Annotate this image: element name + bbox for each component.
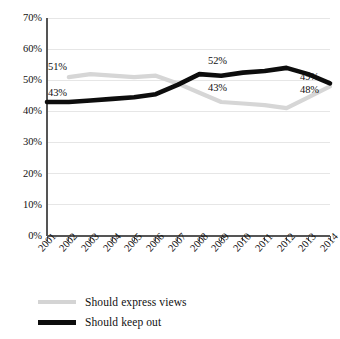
- y-tick-label: 40%: [4, 105, 42, 116]
- legend-label: Should express views: [85, 296, 187, 308]
- data-label: 49%: [300, 71, 319, 82]
- legend-item-should-express-views: Should express views: [38, 292, 298, 312]
- y-tick-label: 20%: [4, 168, 42, 179]
- legend-item-should-keep-out: Should keep out: [38, 312, 298, 332]
- data-label: 43%: [208, 82, 227, 93]
- legend-label: Should keep out: [85, 316, 161, 328]
- y-tick-label: 10%: [4, 199, 42, 210]
- legend-swatch-icon: [38, 320, 76, 325]
- gridlines: [47, 18, 330, 205]
- y-tick-label: 0%: [4, 230, 42, 241]
- y-tick-label: 70%: [4, 12, 42, 23]
- chart-legend: Should express views Should keep out: [38, 292, 298, 332]
- y-tick-label: 50%: [4, 74, 42, 85]
- data-label: 43%: [48, 87, 67, 98]
- data-label: 52%: [208, 55, 227, 66]
- data-label: 51%: [48, 61, 67, 72]
- y-tick-label: 30%: [4, 136, 42, 147]
- series-line-should-express-views: [69, 74, 330, 108]
- data-label: 48%: [300, 84, 319, 95]
- legend-swatch-icon: [38, 300, 76, 304]
- y-tick-label: 60%: [4, 43, 42, 54]
